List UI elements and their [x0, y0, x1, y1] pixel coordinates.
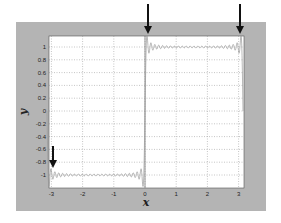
plot-area [49, 36, 244, 188]
y-tick-label: 0.8 [38, 57, 47, 63]
y-tick-label: 0.4 [38, 82, 47, 88]
x-axis-label: x [142, 196, 150, 209]
y-tick-label: -0.4 [36, 134, 47, 140]
y-tick-label: -0.2 [36, 121, 47, 127]
y-tick-label: 0.2 [38, 95, 47, 101]
y-tick-label: -0.6 [36, 146, 47, 152]
y-tick-label: 0.6 [38, 70, 47, 76]
x-tick-label: -2 [80, 191, 86, 197]
y-tick-label: -1 [41, 172, 47, 178]
chart: 10.80.60.40.20-0.2-0.4-0.6-0.8-1 -3-2-10… [0, 0, 281, 223]
x-tick-label: -3 [49, 191, 55, 197]
y-tick-label: -0.8 [36, 159, 47, 165]
x-tick-label: -1 [111, 191, 117, 197]
